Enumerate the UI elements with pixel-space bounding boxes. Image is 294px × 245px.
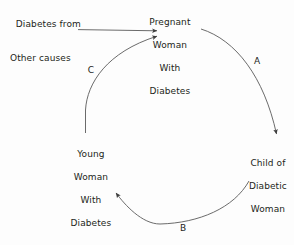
node-pregnant-woman-with-diabetes: Pregnant Woman With Diabetes (128, 5, 200, 109)
edge-a-path (201, 29, 277, 134)
node-child-line1: Child of (250, 158, 285, 168)
edge-label-c: C (84, 65, 98, 75)
node-young-line4: Diabetes (71, 218, 112, 228)
node-young-woman-with-diabetes: Young Woman With Diabetes (52, 137, 118, 241)
node-pregnant-line3: With (160, 63, 181, 73)
node-child-line2: Diabetic (249, 181, 287, 191)
edge-label-b: B (176, 223, 190, 233)
node-young-line3: With (81, 195, 102, 205)
node-diabetes-other-causes: Diabetes from Other causes (4, 7, 80, 88)
node-young-line1: Young (77, 149, 104, 159)
diagram-canvas: Diabetes from Other causes Pregnant Woma… (0, 0, 294, 245)
edge-label-a: A (250, 56, 264, 66)
node-pregnant-line4: Diabetes (150, 86, 191, 96)
node-young-line2: Woman (74, 172, 108, 182)
node-child-line3: Woman (251, 204, 285, 214)
node-pregnant-line1: Pregnant (149, 17, 190, 27)
node-child-of-diabetic-woman: Child of Diabetic Woman (230, 146, 294, 227)
node-source-line2: Other causes (4, 53, 80, 65)
node-pregnant-line2: Woman (153, 40, 187, 50)
node-source-line1: Diabetes from (16, 19, 81, 29)
